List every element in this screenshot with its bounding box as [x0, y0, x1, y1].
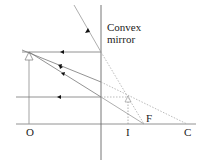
mirror-label-line2: mirror: [107, 33, 135, 45]
ray-virtual-to-focus: [101, 52, 144, 124]
focus-label: F: [146, 112, 152, 124]
ray-mirror-to-focus: [101, 97, 144, 124]
ray-virtual-to-center: [101, 82, 187, 124]
image-label: I: [126, 126, 130, 138]
ray-to-focus: [29, 52, 101, 97]
ray-arrow-icon: [57, 95, 61, 99]
ray-arrow-icon: [60, 50, 64, 54]
object-label: O: [26, 126, 34, 138]
ray-reflected-diagonal: [74, 5, 101, 52]
mirror-label-line1: Convex: [107, 21, 142, 33]
center-label: C: [184, 126, 191, 138]
ray-diagram: Convex mirror O I F C: [0, 0, 202, 166]
